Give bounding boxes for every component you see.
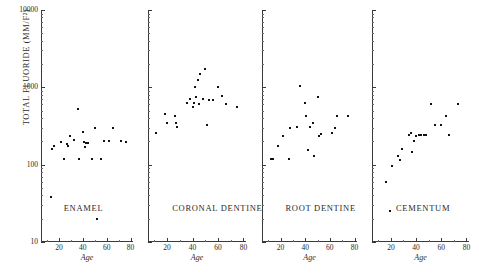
data-point bbox=[67, 145, 69, 147]
data-point bbox=[73, 139, 75, 141]
data-point bbox=[50, 196, 52, 198]
data-point bbox=[336, 115, 338, 117]
x-axis-tick-label: 60 bbox=[438, 244, 446, 252]
panel-title-enamel: ENAMEL bbox=[64, 203, 104, 213]
data-point bbox=[186, 102, 188, 104]
x-axis-tick-label: 40 bbox=[79, 244, 87, 252]
x-axis-tick-label: 80 bbox=[240, 244, 248, 252]
data-point bbox=[296, 126, 298, 128]
x-axis-tick-label: 60 bbox=[214, 244, 222, 252]
data-point bbox=[410, 132, 412, 134]
data-point bbox=[84, 146, 86, 148]
data-point bbox=[236, 106, 238, 108]
data-point bbox=[100, 158, 102, 160]
data-point bbox=[299, 85, 301, 87]
data-point bbox=[289, 127, 291, 129]
panel-coronal-dentine: 20406080AgeCORONAL DENTINE bbox=[148, 10, 246, 242]
data-point bbox=[176, 126, 178, 128]
data-point bbox=[193, 102, 195, 104]
x-axis-tick-label: 80 bbox=[127, 244, 135, 252]
data-point bbox=[63, 158, 65, 160]
data-point bbox=[312, 122, 314, 124]
x-axis-tick-label: 40 bbox=[301, 244, 309, 252]
data-point bbox=[197, 79, 199, 81]
data-point bbox=[401, 148, 403, 150]
y-axis-tick-label: 100 bbox=[27, 161, 38, 169]
data-point bbox=[204, 68, 206, 70]
data-point bbox=[155, 132, 157, 134]
figure-scatter-fluoride-vs-age: TOTAL FLUORIDE (MM/F²) 10000100010010204… bbox=[0, 0, 479, 274]
data-point bbox=[217, 86, 219, 88]
x-axis-tick-label: 40 bbox=[412, 244, 420, 252]
data-point bbox=[221, 95, 223, 97]
data-point bbox=[309, 126, 311, 128]
data-point bbox=[103, 140, 105, 142]
data-point bbox=[174, 115, 176, 117]
data-point bbox=[440, 124, 442, 126]
data-point bbox=[120, 140, 122, 142]
x-axis-tick-label: 20 bbox=[55, 244, 63, 252]
data-point bbox=[198, 103, 200, 105]
y-axis-title: TOTAL FLUORIDE (MM/F²) bbox=[21, 0, 31, 147]
x-axis-tick-label: 20 bbox=[277, 244, 285, 252]
data-point bbox=[60, 141, 62, 143]
data-point bbox=[304, 102, 306, 104]
data-point bbox=[313, 155, 315, 157]
data-point bbox=[448, 134, 450, 136]
x-axis-tick-label: 20 bbox=[163, 244, 171, 252]
data-point bbox=[430, 103, 432, 105]
panel-title-root-dentine: ROOT DENTINE bbox=[285, 203, 355, 213]
data-point bbox=[411, 151, 413, 153]
panel-title-coronal-dentine: CORONAL DENTINE bbox=[172, 203, 262, 213]
data-point bbox=[334, 127, 336, 129]
x-axis-tick-label: 60 bbox=[103, 244, 111, 252]
y-axis-tick-label: 10000 bbox=[19, 6, 38, 14]
data-point bbox=[317, 96, 319, 98]
data-point bbox=[202, 98, 204, 100]
data-point bbox=[445, 115, 447, 117]
data-point bbox=[91, 158, 93, 160]
y-axis-tick bbox=[148, 242, 152, 243]
data-point bbox=[389, 210, 391, 212]
data-point bbox=[51, 148, 53, 150]
data-point bbox=[288, 158, 290, 160]
data-point bbox=[425, 134, 427, 136]
data-point bbox=[194, 86, 196, 88]
x-axis-tick-label: 60 bbox=[326, 244, 334, 252]
x-axis-title: Age bbox=[81, 253, 93, 262]
data-point bbox=[192, 106, 194, 108]
y-axis-tick-label: 10 bbox=[31, 238, 39, 246]
y-axis-tick bbox=[41, 242, 45, 243]
data-point bbox=[225, 103, 227, 105]
data-point bbox=[272, 158, 274, 160]
data-point bbox=[164, 113, 166, 115]
data-point bbox=[199, 73, 201, 75]
data-point bbox=[434, 124, 436, 126]
data-point bbox=[125, 141, 127, 143]
data-point bbox=[385, 181, 387, 183]
panel-cementum: 20406080AgeCEMENTUM bbox=[372, 10, 469, 242]
panel-title-cementum: CEMENTUM bbox=[396, 203, 450, 213]
data-point bbox=[189, 98, 191, 100]
panel-enamel: 1000010001001020406080AgeENAMEL bbox=[41, 10, 133, 242]
data-point bbox=[397, 155, 399, 157]
data-point bbox=[331, 132, 333, 134]
y-axis-tick bbox=[372, 242, 376, 243]
data-point bbox=[391, 165, 393, 167]
data-point bbox=[347, 115, 349, 117]
data-point bbox=[318, 135, 320, 137]
data-point bbox=[87, 142, 89, 144]
y-axis-tick-label: 1000 bbox=[23, 84, 38, 92]
data-point bbox=[206, 124, 208, 126]
x-axis-tick-label: 80 bbox=[463, 244, 471, 252]
data-point bbox=[82, 131, 84, 133]
data-point bbox=[78, 158, 80, 160]
data-point bbox=[108, 140, 110, 142]
x-axis-tick-label: 40 bbox=[189, 244, 197, 252]
x-axis-title: Age bbox=[191, 253, 203, 262]
data-point bbox=[457, 103, 459, 105]
data-point bbox=[166, 122, 168, 124]
data-point bbox=[69, 135, 71, 137]
data-point bbox=[305, 115, 307, 117]
data-point bbox=[77, 108, 79, 110]
